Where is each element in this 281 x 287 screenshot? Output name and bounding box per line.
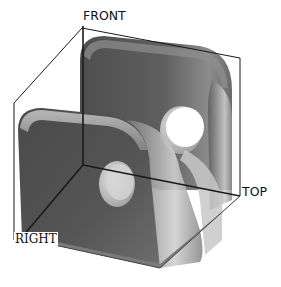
model-viewport[interactable]: FRONT TOP RIGHT — [0, 0, 281, 287]
front-plane-label[interactable]: FRONT — [83, 9, 126, 23]
upper-hole — [166, 107, 204, 147]
top-plane-label[interactable]: TOP — [242, 185, 267, 199]
right-plane-label[interactable]: RIGHT — [14, 232, 58, 246]
